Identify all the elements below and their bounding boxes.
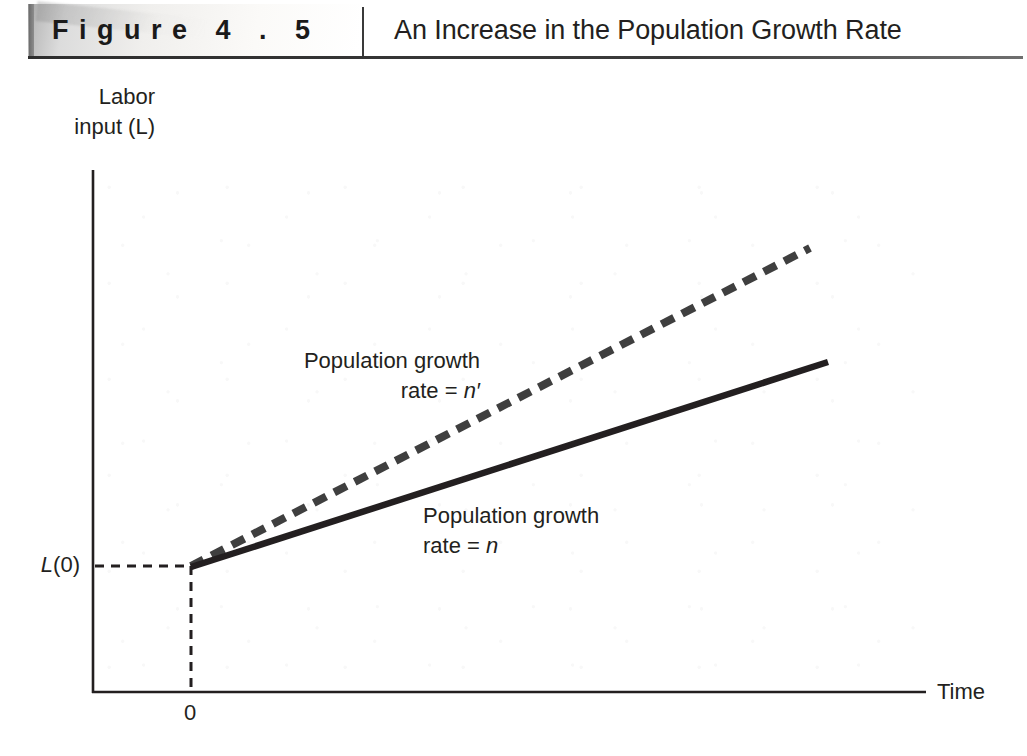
x-axis-title: Time: [937, 677, 985, 707]
annotation-n-prime-line1: Population growth: [235, 346, 480, 376]
annotation-n-prime: Population growth rate = n′: [235, 346, 480, 406]
annotation-n-prime-symbol: n′: [464, 378, 480, 403]
y-tick-symbol: L: [41, 552, 53, 577]
y-axis-title: Labor input (L): [10, 82, 155, 142]
y-axis-title-line1: Labor: [99, 84, 155, 109]
y-axis-tick-label-L0: L(0): [18, 550, 80, 580]
y-axis-title-line2: input (L): [10, 112, 155, 142]
y-tick-arg: (0): [53, 552, 80, 577]
annotation-n: Population growth rate = n: [423, 501, 683, 561]
x-axis-tick-label-zero: 0: [168, 698, 212, 728]
chart-canvas: [0, 60, 1027, 756]
chart-figure: Labor input (L) Time L(0) 0 Population g…: [0, 60, 1027, 756]
figure-number-label: Figure 4 . 5: [52, 12, 321, 48]
header-rule: [28, 56, 1023, 59]
figure-band-left-edge: [29, 4, 34, 56]
annotation-n-line2: rate = n: [423, 531, 683, 561]
figure-header: Figure 4 . 5 An Increase in the Populati…: [0, 0, 1027, 60]
annotation-n-line1: Population growth: [423, 501, 683, 531]
annotation-n-symbol: n: [486, 533, 498, 558]
annotation-n-prime-line2: rate = n′: [235, 376, 480, 406]
figure-title: An Increase in the Population Growth Rat…: [394, 12, 902, 48]
header-divider: [362, 7, 364, 56]
